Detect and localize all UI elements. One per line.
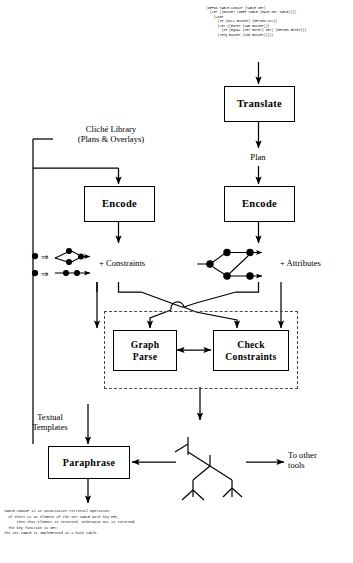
box-encode-right[interactable]: Encode (224, 186, 295, 222)
derivation-tree-glyph (175, 437, 242, 500)
box-graph-parse-label-line2: Parse (133, 351, 157, 362)
label-to-other-tools: To other tools (288, 450, 348, 470)
label-plus-attributes: + Attributes (280, 258, 350, 268)
dataflow-graph-glyph (197, 249, 262, 279)
box-graph-parse-label-line1: Graph (131, 339, 160, 350)
label-to-other-tools-line1: To other (288, 450, 317, 460)
cliche-rule-glyphs: ⇒ ⇒ (32, 249, 90, 280)
box-encode-left[interactable]: Encode (84, 186, 155, 222)
svg-text:⇒: ⇒ (41, 252, 49, 262)
svg-text:⇒: ⇒ (41, 269, 49, 279)
label-plan: Plan (236, 152, 280, 162)
box-check-constraints-label-line2: Constraints (225, 351, 276, 362)
box-paraphrase[interactable]: Paraphrase (48, 446, 130, 479)
label-to-other-tools-line2: tools (288, 460, 305, 470)
label-textual-templates-line1: Textual (37, 412, 63, 422)
generated-caption-text: TABLE-LOOKUP is an associative retrieval… (4, 509, 224, 537)
box-check-constraints-label-line1: Check (237, 339, 265, 350)
label-textual-templates-line2: Templates (32, 422, 67, 432)
box-encode-right-label: Encode (242, 198, 277, 210)
diagram-canvas: (DEFUN TABLE-LOOKUP (TABLE KEY) (LET ((B… (0, 0, 353, 563)
box-translate[interactable]: Translate (224, 86, 295, 122)
box-encode-left-label: Encode (102, 198, 137, 210)
label-cliche-library-line2: (Plans & Overlays) (78, 134, 144, 144)
box-translate-label: Translate (237, 98, 282, 110)
label-cliche-library: Cliché Library (Plans & Overlays) (55, 124, 167, 144)
label-cliche-library-line1: Cliché Library (86, 124, 136, 134)
box-paraphrase-label: Paraphrase (63, 457, 115, 469)
box-graph-parse[interactable]: Graph Parse (113, 330, 177, 371)
label-plus-constraints: + Constraints (99, 258, 171, 268)
box-check-constraints[interactable]: Check Constraints (213, 330, 289, 371)
label-textual-templates: Textual Templates (16, 412, 84, 432)
